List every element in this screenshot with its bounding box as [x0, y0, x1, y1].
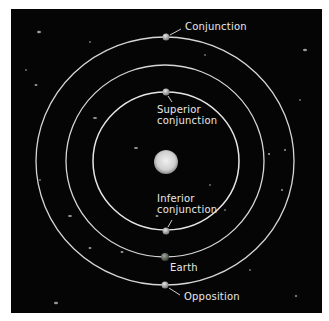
- label-opposition: Opposition: [184, 291, 240, 302]
- label-superior-conjunction: Superior conjunction: [157, 104, 217, 126]
- sun: [154, 150, 178, 174]
- planet-conjunction: [163, 34, 170, 41]
- label-superior-line1: Superior: [157, 104, 217, 115]
- planet-opposition: [162, 282, 169, 289]
- label-inferior-conjunction: Inferior conjunction: [157, 193, 217, 215]
- leader-line-conjunction: [170, 29, 181, 35]
- planet-inferior-conjunction: [163, 228, 170, 235]
- label-conjunction: Conjunction: [185, 21, 247, 32]
- leader-line-inferior: [168, 220, 172, 227]
- orbit-diagram: [0, 0, 329, 321]
- label-inferior-line1: Inferior: [157, 193, 217, 204]
- label-superior-line2: conjunction: [157, 115, 217, 126]
- planet-superior-conjunction: [163, 89, 170, 96]
- earth-planet: [161, 253, 169, 261]
- label-earth: Earth: [170, 262, 198, 273]
- leader-line-opposition: [169, 288, 180, 295]
- label-inferior-line2: conjunction: [157, 204, 217, 215]
- leader-line-superior: [168, 96, 172, 102]
